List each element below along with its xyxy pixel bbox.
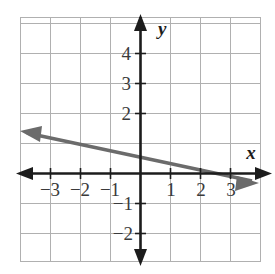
x-tick-label: 3 xyxy=(226,179,236,200)
coordinate-plane-figure: −3 −2 −1 1 2 3 4 3 2 −1 −2 y x xyxy=(0,0,275,274)
x-tick-label: −3 xyxy=(40,179,60,200)
y-tick-label: 2 xyxy=(122,103,132,124)
x-axis-label: x xyxy=(245,142,256,163)
x-tick-label: 2 xyxy=(196,179,206,200)
y-axis-label: y xyxy=(156,18,167,39)
y-tick-label: −2 xyxy=(113,223,133,244)
y-tick-label: 4 xyxy=(122,43,132,64)
y-tick-label: 3 xyxy=(122,73,132,94)
coordinate-plane-svg: −3 −2 −1 1 2 3 4 3 2 −1 −2 y x xyxy=(0,0,275,274)
x-tick-label: −2 xyxy=(70,179,90,200)
x-tick-label: 1 xyxy=(166,179,176,200)
y-tick-label: −1 xyxy=(113,193,133,214)
